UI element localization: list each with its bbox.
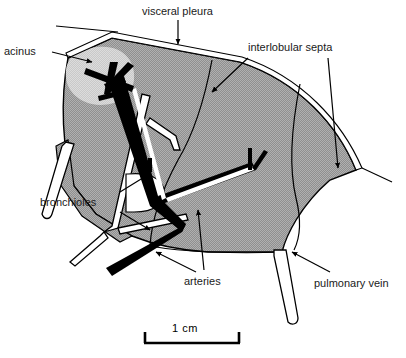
- leader-pulmonary-vein: [292, 252, 330, 272]
- pulmonary-vein-tube: [274, 250, 298, 324]
- label-arteries: arteries: [184, 275, 221, 287]
- label-visceral-pleura: visceral pleura: [142, 5, 213, 17]
- leader-arteries-left: [156, 252, 196, 272]
- label-acinus: acinus: [4, 45, 36, 57]
- figure-canvas: acinus visceral pleura interlobular sept…: [0, 0, 406, 358]
- lung-lobule-diagram: [0, 0, 406, 358]
- scale-bar-label: 1 cm: [172, 322, 198, 334]
- label-interlobular-septa: interlobular septa: [248, 41, 332, 53]
- label-bronchioles: bronchioles: [40, 196, 96, 208]
- label-pulmonary-vein: pulmonary vein: [314, 277, 389, 289]
